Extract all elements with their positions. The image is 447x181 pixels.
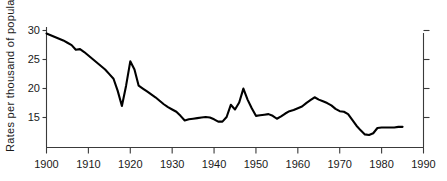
x-tick-label-1960: 1960	[286, 158, 310, 170]
y-tick-label-30: 30	[28, 24, 40, 36]
y-tick-label-15: 15	[28, 111, 40, 123]
y-axis-label-text: Rates per thousand of population	[4, 0, 16, 152]
y-axis-label: Rates per thousand of population	[4, 0, 16, 152]
x-tick-label-1940: 1940	[202, 158, 226, 170]
x-tick-label-group: 1900191019201930194019501960197019801990	[34, 158, 435, 170]
axis-lines	[46, 27, 424, 148]
line-chart: Rates per thousand of population 3025201…	[0, 0, 447, 181]
y-tick-label-25: 25	[28, 53, 40, 65]
data-series-group	[47, 33, 403, 135]
y-tick-label-20: 20	[28, 82, 40, 94]
y-tick-label-group: 30252015	[28, 24, 40, 123]
x-tick-label-1930: 1930	[160, 158, 184, 170]
x-tick-label-1920: 1920	[118, 158, 142, 170]
x-tick-label-1970: 1970	[327, 158, 351, 170]
x-tick-label-1980: 1980	[369, 158, 393, 170]
data-line-rates	[47, 33, 403, 135]
x-tick-label-1900: 1900	[34, 158, 58, 170]
x-tick-label-1990: 1990	[411, 158, 435, 170]
chart-container: Rates per thousand of population 3025201…	[0, 0, 447, 181]
x-tick-label-1910: 1910	[76, 158, 100, 170]
x-tick-label-1950: 1950	[244, 158, 268, 170]
